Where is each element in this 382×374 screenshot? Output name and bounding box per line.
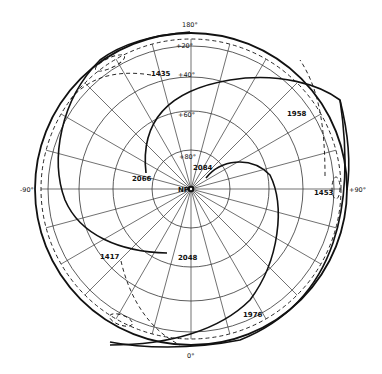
meridian-line (191, 189, 321, 264)
longitude-label-top: 180° (182, 21, 198, 29)
meridian-line (61, 189, 191, 264)
longitude-label-bottom: 0° (187, 352, 194, 360)
latitude-label-80: +80° (179, 153, 196, 161)
meridian-line (61, 114, 191, 189)
year-label-1417: 1417 (100, 253, 120, 261)
year-labels: 1435 1958 2066 2084 1453 1417 2048 1976 (100, 70, 334, 319)
year-label-2066: 2066 (132, 175, 152, 183)
meridian-line (46, 189, 191, 228)
meridian-line (46, 150, 191, 189)
year-label-1453: 1453 (314, 189, 334, 197)
longitude-label-right: +90° (349, 186, 366, 194)
spiral-path-lower (110, 100, 345, 347)
meridian-line (191, 114, 321, 189)
year-label-2084: 2084 (193, 164, 213, 172)
latitude-label-40: +40° (178, 71, 195, 79)
polar-diagram: 180° 0° -90° +90° +20° +40° +60° +80° NP… (0, 0, 382, 374)
north-pole-label: NP (178, 186, 189, 194)
longitude-label-left: -90° (20, 186, 34, 194)
meridian-line (191, 189, 266, 319)
spiral-path-upper (145, 78, 349, 190)
meridian-line (191, 83, 297, 189)
meridian-line (191, 189, 297, 295)
latitude-label-20: +20° (176, 42, 193, 50)
meridian-line (85, 189, 191, 295)
latitude-label-60: +60° (178, 111, 195, 119)
year-label-1976: 1976 (243, 311, 263, 319)
meridian-line (85, 83, 191, 189)
node-paths (58, 32, 348, 347)
spiral-path-left (58, 32, 190, 253)
year-label-1435: 1435 (151, 70, 171, 78)
year-label-1958: 1958 (287, 110, 307, 118)
year-label-2048: 2048 (178, 254, 198, 262)
